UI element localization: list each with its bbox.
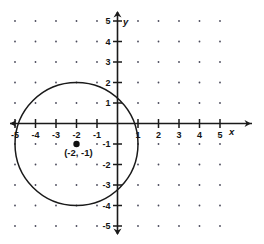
grid-dot [35, 205, 37, 207]
grid-dot [96, 61, 98, 63]
grid-dot [158, 164, 160, 166]
y-axis-tick-label: 2 [105, 78, 110, 88]
grid-dot [76, 61, 78, 63]
y-axis-label: y [122, 16, 129, 27]
grid-dot [35, 41, 37, 43]
x-axis-label: x [228, 126, 235, 137]
grid-dot [158, 82, 160, 84]
y-axis-tick-label: -3 [102, 180, 110, 190]
grid-dot [178, 20, 180, 22]
grid-dot [158, 205, 160, 207]
grid-dot [55, 225, 57, 227]
y-axis-tick-label: -4 [102, 201, 110, 211]
grid-dot [158, 61, 160, 63]
x-axis-tick-label: -4 [31, 130, 39, 140]
grid-dot [14, 41, 16, 43]
grid-dot [55, 20, 57, 22]
grid-dot [137, 61, 139, 63]
grid-dot [55, 82, 57, 84]
grid-dot [137, 164, 139, 166]
grid-dot [178, 143, 180, 145]
grid-dot [35, 82, 37, 84]
grid-dot [76, 102, 78, 104]
grid-dot [158, 102, 160, 104]
grid-dot [137, 205, 139, 207]
grid-dot [35, 164, 37, 166]
grid-dot [199, 41, 201, 43]
x-axis-tick-label: -3 [52, 130, 60, 140]
x-axis-tick-label: 1 [135, 130, 140, 140]
grid-dot [158, 143, 160, 145]
grid-dot [76, 225, 78, 227]
grid-dot [199, 184, 201, 186]
axis-lines [10, 11, 252, 235]
grid-dot [96, 102, 98, 104]
grid-dot [137, 20, 139, 22]
grid-dot [219, 102, 221, 104]
grid-dot [55, 164, 57, 166]
grid-dot [178, 184, 180, 186]
grid-dot [178, 102, 180, 104]
grid-dot [219, 164, 221, 166]
grid-dot [55, 102, 57, 104]
grid-dot [199, 205, 201, 207]
grid-dot [199, 143, 201, 145]
grid-dot [199, 225, 201, 227]
grid-dot [199, 20, 201, 22]
coordinate-plane-graph: -5-4-3-2-112345 54321-1-2-3-4-5 x y (-2,… [0, 0, 264, 244]
grid-dot [55, 205, 57, 207]
x-axis-tick-label: -2 [72, 130, 80, 140]
y-axis-tick-label: -1 [102, 139, 110, 149]
grid-dot [199, 82, 201, 84]
grid-dot [14, 82, 16, 84]
y-axis-tick-label: 4 [105, 37, 110, 47]
grid-dot [137, 41, 139, 43]
grid-dot [76, 184, 78, 186]
grid-dot [96, 225, 98, 227]
center-point-marker [73, 141, 79, 147]
grid-dot [14, 184, 16, 186]
x-axis-tick-label: -1 [93, 130, 101, 140]
grid-dot [158, 20, 160, 22]
x-axis-tick-label: 5 [217, 130, 222, 140]
grid-dot [96, 205, 98, 207]
grid-dot [178, 61, 180, 63]
grid-dot [35, 184, 37, 186]
grid-dot [178, 225, 180, 227]
grid-dot [96, 164, 98, 166]
grid-dot [158, 41, 160, 43]
y-axis-tick-label: 1 [105, 98, 110, 108]
x-axis-tick-label: -5 [11, 130, 19, 140]
grid-dot [96, 82, 98, 84]
x-axis-tick-label: 3 [176, 130, 181, 140]
grid-dot [158, 184, 160, 186]
grid-dot [35, 20, 37, 22]
grid-dot [96, 184, 98, 186]
grid-dot [76, 164, 78, 166]
grid-dot [96, 41, 98, 43]
grid-dot [14, 102, 16, 104]
grid-dot [137, 82, 139, 84]
grid-dot [219, 205, 221, 207]
grid-dot [219, 225, 221, 227]
grid-dot [178, 82, 180, 84]
grid-dot [76, 41, 78, 43]
y-axis-tick-label: -2 [102, 160, 110, 170]
grid-dot [219, 143, 221, 145]
y-axis-tick-label: -5 [102, 221, 110, 231]
grid-dot [14, 205, 16, 207]
grid-dot [35, 225, 37, 227]
grid-dot [35, 61, 37, 63]
grid-dot [35, 102, 37, 104]
grid-dot [199, 102, 201, 104]
grid-dot [219, 41, 221, 43]
x-axis-tick-label: 4 [197, 130, 202, 140]
y-axis-tick-label: 3 [105, 57, 110, 67]
grid-dot [178, 164, 180, 166]
graph-canvas: -5-4-3-2-112345 54321-1-2-3-4-5 x y (-2,… [0, 0, 264, 244]
grid-dot [14, 20, 16, 22]
grid-dot [55, 143, 57, 145]
grid-dot [178, 41, 180, 43]
grid-dot [199, 61, 201, 63]
grid-dot [137, 184, 139, 186]
